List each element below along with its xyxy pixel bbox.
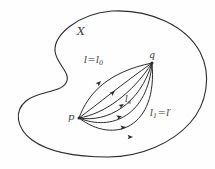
homotopy-figure: X p q l=l0 ls l1=l′ <box>0 0 215 169</box>
path-5-curve <box>79 63 152 123</box>
figure-canvas <box>0 0 215 169</box>
path-ls-label: ls <box>125 95 131 105</box>
path-l1-prime: ′ <box>169 107 171 118</box>
path-l0-rhs-subscript: 0 <box>99 59 103 67</box>
point-q-label: q <box>149 50 155 60</box>
point-p-label: p <box>68 112 74 122</box>
path-l0-label: l=l0 <box>84 55 103 66</box>
path-2-curve <box>79 63 152 118</box>
space-label: X <box>77 26 85 37</box>
point-q-dot <box>151 62 154 65</box>
homotopy-path-family <box>79 63 153 130</box>
space-boundary-curve <box>18 11 206 157</box>
point-p-dot <box>78 117 81 120</box>
path-l1-label: l1=l′ <box>150 108 171 119</box>
arrowhead-l1 <box>128 135 134 140</box>
path-l1-equals: = <box>157 107 166 118</box>
path-l0-equals: = <box>87 54 96 65</box>
path-ls-subscript: s <box>128 98 131 105</box>
